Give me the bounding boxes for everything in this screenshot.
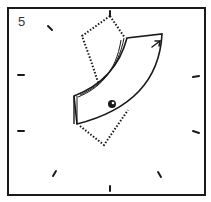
tick-right-upper	[193, 76, 199, 77]
tick-bottom-right	[158, 172, 161, 177]
tick-upper-left	[48, 26, 52, 30]
tick-right-lower	[193, 131, 199, 133]
strap-illustration	[0, 0, 211, 202]
pivot-rivet-icon	[108, 100, 116, 108]
tick-bottom-left	[53, 171, 56, 176]
